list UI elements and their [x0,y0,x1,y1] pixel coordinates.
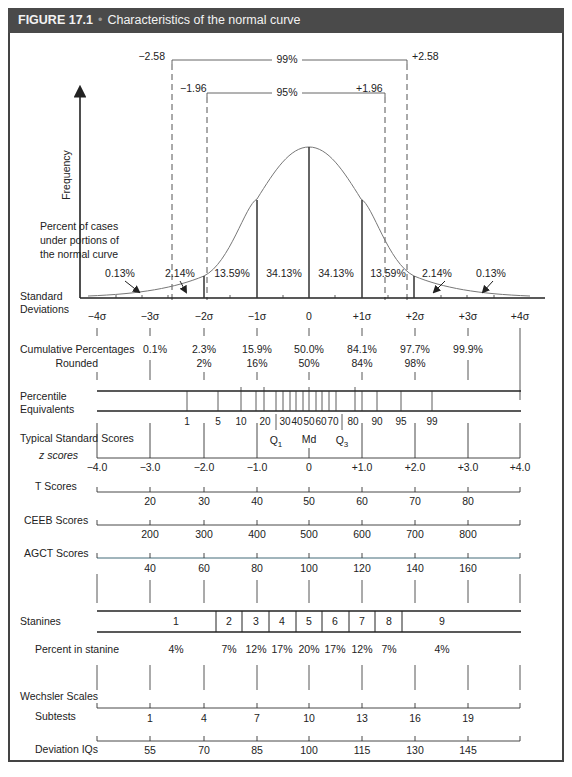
svg-text:700: 700 [406,528,424,540]
svg-text:9: 9 [439,615,445,627]
svg-text:17%: 17% [324,643,345,655]
curve-note-3: the normal curve [40,248,118,260]
svg-text:0: 0 [306,461,312,473]
agct-label: AGCT Scores [24,547,89,559]
stanine-pct-label: Percent in stanine [35,643,119,655]
svg-text:70: 70 [327,416,339,427]
svg-text:12%: 12% [351,643,372,655]
svg-text:34.13%: 34.13% [266,267,302,279]
median-label: Md [302,433,317,445]
sd-label-2: Deviations [20,303,69,315]
svg-text:13.59%: 13.59% [370,267,406,279]
svg-text:99: 99 [426,416,438,427]
svg-text:30: 30 [279,416,291,427]
svg-text:−3σ: −3σ [141,310,160,322]
svg-text:6: 6 [332,615,338,627]
svg-text:16: 16 [409,712,421,724]
cumulative-label: Cumulative Percentages [20,343,134,355]
svg-text:20%: 20% [298,643,319,655]
area-percents: 0.13% 2.14% 13.59% 34.13% 34.13% 13.59% … [105,267,506,279]
svg-text:500: 500 [300,528,318,540]
typical-label: Typical Standard Scores [20,432,134,444]
ceeb-label: CEEB Scores [24,514,88,526]
svg-text:95: 95 [395,416,407,427]
frequency-label: Frequency [60,149,72,199]
svg-text:50: 50 [303,495,315,507]
svg-text:8: 8 [386,615,392,627]
svg-text:+3.0: +3.0 [458,461,479,473]
svg-text:2%: 2% [196,357,211,369]
z-label: z scores [38,449,79,461]
svg-text:13.59%: 13.59% [214,267,250,279]
svg-text:0: 0 [306,310,312,322]
svg-text:−4.0: −4.0 [87,461,108,473]
subtests-label: Subtests [35,710,76,722]
svg-text:16%: 16% [246,357,267,369]
svg-text:40: 40 [291,416,303,427]
svg-text:10: 10 [235,416,247,427]
q1-label: Q1 [270,434,283,449]
svg-text:84%: 84% [351,357,372,369]
ceeb-values: 200 300 400 500 600 700 800 [141,528,477,540]
svg-text:4%: 4% [168,643,183,655]
svg-text:−2.0: −2.0 [194,461,215,473]
svg-text:7%: 7% [221,643,236,655]
svg-text:2.14%: 2.14% [165,267,195,279]
wechsler-label: Wechsler Scales [20,690,98,702]
svg-text:7: 7 [359,615,365,627]
svg-text:97.7%: 97.7% [400,343,430,355]
svg-text:+2σ: +2σ [406,310,425,322]
iq-values: 55 70 85 100 115 130 145 [144,744,477,756]
svg-text:400: 400 [248,528,266,540]
svg-text:+2.0: +2.0 [405,461,426,473]
svg-text:80: 80 [251,562,263,574]
svg-text:140: 140 [406,562,424,574]
svg-text:300: 300 [195,528,213,540]
t-values: 20 30 40 50 60 70 80 [144,495,474,507]
subtest-values: 1 4 7 10 13 16 19 [147,712,474,724]
svg-text:60: 60 [198,562,210,574]
svg-text:50.0%: 50.0% [294,343,324,355]
iq-label: Deviation IQs [35,743,98,755]
cumulative-values: 0.1% 2.3% 15.9% 50.0% 84.1% 97.7% 99.9% … [143,343,483,369]
svg-text:800: 800 [459,528,477,540]
svg-text:15.9%: 15.9% [242,343,272,355]
svg-text:50: 50 [303,416,315,427]
svg-text:115: 115 [354,744,371,756]
svg-text:7: 7 [254,712,260,724]
svg-text:120: 120 [353,562,371,574]
q3-label: Q3 [336,434,349,449]
svg-text:0.1%: 0.1% [143,343,167,355]
svg-text:17%: 17% [271,643,292,655]
svg-text:+1σ: +1σ [353,310,372,322]
svg-text:84.1%: 84.1% [347,343,377,355]
svg-text:3: 3 [253,615,259,627]
svg-text:145: 145 [459,744,477,756]
svg-text:60: 60 [356,495,368,507]
svg-text:+4σ: +4σ [511,310,530,322]
percentile-label-2: Equivalents [20,403,74,415]
svg-text:70: 70 [409,495,421,507]
svg-text:+4.0: +4.0 [510,461,531,473]
curve-note-1: Percent of cases [40,220,118,232]
svg-text:130: 130 [406,744,424,756]
svg-text:5: 5 [215,416,221,427]
svg-text:12%: 12% [245,643,266,655]
svg-text:85: 85 [251,744,263,756]
svg-text:60: 60 [315,416,327,427]
svg-text:20: 20 [259,416,271,427]
svg-text:99.9%: 99.9% [453,343,483,355]
svg-text:2.3%: 2.3% [192,343,216,355]
svg-text:−2σ: −2σ [195,310,214,322]
sd-ticks: −4σ −3σ −2σ −1σ 0 +1σ +2σ +3σ +4σ [88,310,530,322]
curve-note-2: under portions of [40,234,119,246]
svg-text:+1.0: +1.0 [352,461,373,473]
svg-text:80: 80 [462,495,474,507]
svg-text:98%: 98% [404,357,425,369]
svg-text:80: 80 [347,416,359,427]
svg-text:100: 100 [300,562,318,574]
stanine-values: 1 2 3 4 5 6 7 8 9 [173,615,445,627]
percentile-values: 1 5 10 20 30 40 50 60 70 80 90 95 99 [184,416,438,427]
ci95-left: −1.96 [180,82,207,94]
svg-text:40: 40 [251,495,263,507]
